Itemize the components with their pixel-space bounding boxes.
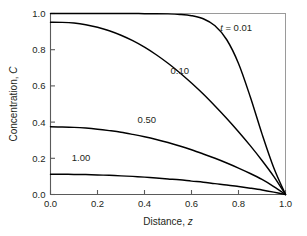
chart-canvas: 0.00.20.40.60.81.0 0.00.20.40.60.81.0 t … [0, 0, 307, 236]
curve-label-1: 0.10 [171, 65, 190, 76]
curve-label-0: t = 0.01 [220, 22, 252, 33]
concentration-distance-figure: 0.00.20.40.60.81.0 0.00.20.40.60.81.0 t … [0, 0, 307, 236]
x-tick-label: 0.0 [44, 198, 57, 209]
x-tick-label: 1.0 [279, 198, 292, 209]
curve-label-3: 1.00 [72, 152, 91, 163]
y-tick-label: 0.4 [32, 117, 45, 128]
x-tick-label: 0.2 [91, 198, 104, 209]
x-axis-title: Distance, z [143, 216, 192, 227]
y-tick-label: 0.2 [32, 153, 45, 164]
y-tick-label: 0.8 [32, 44, 45, 55]
x-tick-label: 0.4 [138, 198, 151, 209]
x-axis-title-text: Distance, z [143, 216, 192, 227]
y-tick-label: 1.0 [32, 8, 45, 19]
x-tick-label: 0.6 [185, 198, 198, 209]
curve-label-2: 0.50 [138, 114, 157, 125]
y-axis-title-text: Concentration, C [8, 66, 19, 142]
y-tick-label: 0.6 [32, 80, 45, 91]
y-tick-label: 0.0 [32, 189, 45, 200]
x-tick-label: 0.8 [232, 198, 245, 209]
y-axis-title: Concentration, C [8, 66, 19, 142]
